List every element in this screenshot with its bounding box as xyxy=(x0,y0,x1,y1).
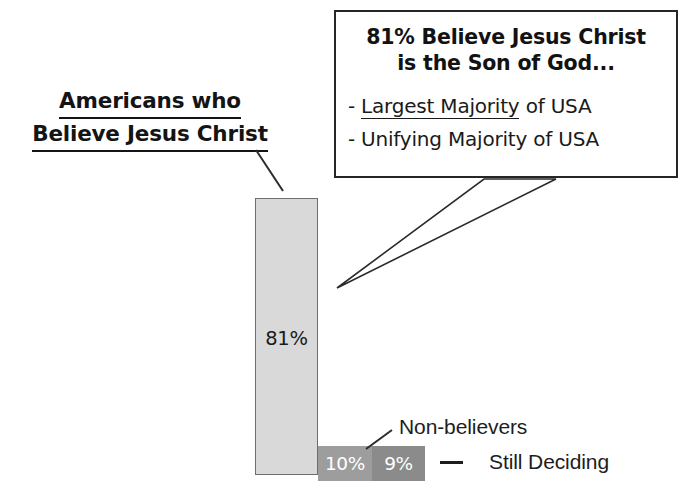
callout-heading-line-2: is the Son of God... xyxy=(336,50,676,76)
title-leader-line xyxy=(256,150,283,191)
callout-box: 81% Believe Jesus Christ is the Son of G… xyxy=(334,10,678,178)
legend-label-still-deciding: Still Deciding xyxy=(489,450,609,474)
bar-non-believers: 10% xyxy=(318,446,372,481)
callout-bullet-2: -Unifying Majority of USA xyxy=(348,123,676,156)
callout-tail xyxy=(337,179,556,288)
callout-bullet-1: -Largest Majority of USA xyxy=(348,90,676,123)
chart-title-label: Americans who Believe Jesus Christ xyxy=(24,86,276,152)
legend-label-non-believers: Non-believers xyxy=(399,415,527,439)
chart-title-line-2: Believe Jesus Christ xyxy=(24,119,276,152)
bar-still-deciding: 9% xyxy=(372,446,425,481)
bullet-dash-2: - xyxy=(348,127,355,151)
bar-believers: 81% xyxy=(255,198,318,475)
bullet-emphasis-1: Largest Majority xyxy=(361,94,519,119)
bullet-rest-1: of USA xyxy=(519,94,591,118)
bullet-text-2: Unifying Majority of USA xyxy=(361,127,599,151)
callout-heading: 81% Believe Jesus Christ is the Son of G… xyxy=(336,24,676,76)
callout-heading-line-1: 81% Believe Jesus Christ xyxy=(336,24,676,50)
callout-bullet-list: -Largest Majority of USA -Unifying Major… xyxy=(336,90,676,156)
bullet-dash-1: - xyxy=(348,94,355,118)
bar-believers-value: 81% xyxy=(256,327,317,350)
legend-dash-still-deciding xyxy=(440,461,463,464)
chart-title-line-1: Americans who xyxy=(24,86,276,119)
chart-figure: Americans who Believe Jesus Christ 81% B… xyxy=(0,0,686,481)
